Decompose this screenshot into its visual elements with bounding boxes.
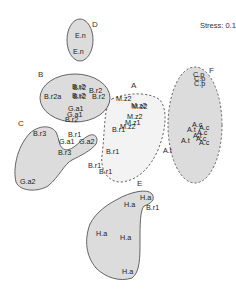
- point-label: B.r2: [92, 92, 105, 101]
- group-label-d: D: [92, 20, 98, 29]
- group-label-f: F: [209, 66, 214, 75]
- group-label-b: B: [38, 70, 43, 79]
- point-label: H.a: [122, 267, 133, 276]
- point-label: A.t: [181, 136, 190, 145]
- point-label: G.a2: [79, 137, 95, 146]
- point-label: A.t: [163, 146, 172, 155]
- point-label: H.a: [140, 193, 151, 202]
- point-label: G.a1: [59, 137, 75, 146]
- nmds-plot: Stress: 0.11 D B A C F E E.n E.n B.r2 B.…: [0, 0, 236, 293]
- point-label: B.r3: [58, 148, 71, 157]
- point-label: B.r1: [112, 125, 125, 134]
- point-label: B.r3: [33, 129, 46, 138]
- point-label: B.r1: [99, 167, 112, 176]
- point-label: H.a: [124, 200, 135, 209]
- group-label-e: E: [137, 179, 142, 188]
- point-label: H.a: [96, 229, 107, 238]
- point-label: B.r1: [146, 203, 159, 212]
- point-label: G.a2: [20, 177, 36, 186]
- point-label: B.r2a: [44, 92, 61, 101]
- stress-label: Stress: 0.11: [200, 21, 236, 30]
- point-label: E.n: [73, 47, 84, 56]
- point-label: H.a: [120, 233, 131, 242]
- point-label: A.c: [199, 138, 210, 147]
- point-label: E.n: [75, 31, 86, 40]
- point-label: B.r2: [65, 115, 78, 124]
- point-label: M.z2: [116, 94, 132, 103]
- group-label-a: A: [131, 81, 137, 90]
- point-label: M.z2: [132, 102, 148, 111]
- point-label: C.p: [194, 79, 205, 88]
- group-label-c: C: [18, 119, 24, 128]
- point-label: B.r1: [106, 147, 119, 156]
- point-label: B.r2: [73, 92, 86, 101]
